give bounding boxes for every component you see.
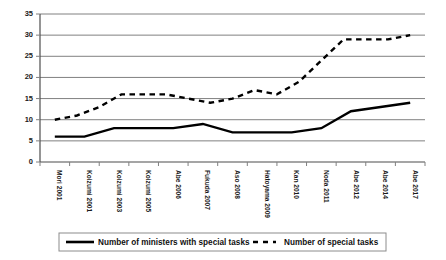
y-tick-label: 10: [25, 115, 33, 124]
plot-area-background: [40, 14, 425, 162]
x-axis-labels: Mori 2001Koizumi 2001Koizumi 2003Koizumi…: [56, 170, 418, 218]
x-tick-label: Aso 2008: [234, 170, 241, 199]
y-tick-label: 0: [29, 157, 33, 166]
x-tick-label: Fukuda 2007: [204, 170, 211, 210]
y-tick-label: 30: [25, 30, 33, 39]
x-tickmarks: [40, 162, 425, 166]
x-tick-label: Abe 2017: [412, 170, 419, 199]
y-tick-label: 25: [25, 51, 33, 60]
x-tick-label: Noda 2011: [323, 170, 330, 203]
x-tick-label: Koizumi 2001: [86, 170, 93, 212]
x-tick-label: Abe 2014: [382, 170, 389, 199]
y-tick-label: 5: [29, 136, 33, 145]
x-tick-label: Mori 2001: [56, 170, 63, 201]
x-tick-label: Koizumi 2003: [116, 170, 123, 212]
x-tick-label: Hatoyama 2009: [263, 170, 271, 218]
chart-legend: Number of ministers with special tasks N…: [59, 233, 386, 251]
legend-label-ministers: Number of ministers with special tasks: [98, 238, 250, 247]
x-tick-label: Abe 2006: [175, 170, 182, 199]
line-chart: 35 30 25 20 15 10 5 0 Mori 2001Koizumi 2…: [0, 0, 446, 260]
x-tick-label: Koizumi 2005: [145, 170, 152, 212]
x-tick-label: Kan 2010: [293, 170, 300, 199]
x-tick-label: Abe 2012: [353, 170, 360, 199]
chart-container: 35 30 25 20 15 10 5 0 Mori 2001Koizumi 2…: [0, 0, 446, 260]
legend-label-special-tasks: Number of special tasks: [284, 238, 379, 247]
y-tick-label: 20: [25, 72, 33, 81]
y-tick-label: 15: [25, 94, 33, 103]
y-tick-label: 35: [25, 9, 33, 18]
y-axis-labels: 35 30 25 20 15 10 5 0: [25, 9, 33, 166]
